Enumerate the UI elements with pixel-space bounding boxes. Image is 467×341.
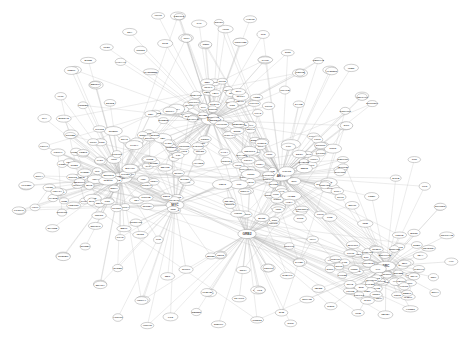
graph-node[interactable]: KYT (191, 20, 206, 27)
graph-node[interactable]: IPZTR (325, 302, 338, 309)
graph-node[interactable]: MGHU (345, 201, 359, 209)
graph-node[interactable]: TNZ (167, 206, 178, 212)
graph-node[interactable]: VLXF (55, 93, 67, 100)
graph-node[interactable]: ICMR (344, 64, 359, 71)
graph-node[interactable]: PZTH5 (392, 232, 406, 238)
graph-node[interactable]: DBNMD (191, 308, 201, 315)
graph-node[interactable]: MHPXFK (346, 241, 360, 249)
graph-node[interactable]: FAZIX (163, 140, 173, 147)
graph-node[interactable]: DRVEV (214, 19, 224, 26)
graph-node[interactable]: HUKFN (141, 322, 154, 328)
graph-node[interactable]: RYY (38, 114, 51, 122)
graph-node[interactable]: LGVGUR (215, 121, 229, 128)
graph-node[interactable]: CDDA (254, 160, 265, 168)
graph-node[interactable]: ZSA (123, 28, 137, 35)
graph-node[interactable]: ZNVSFG (88, 222, 102, 229)
graph-node[interactable]: PCL (281, 143, 296, 150)
graph-node[interactable]: MET (161, 273, 175, 280)
graph-node[interactable]: NRTY (236, 266, 250, 273)
graph-node[interactable]: BCNE (255, 214, 270, 221)
graph-node[interactable]: CUM (60, 198, 69, 204)
graph-node[interactable]: AHDY (283, 199, 295, 205)
graph-node[interactable]: YLZSZS9 (326, 67, 338, 75)
graph-node[interactable]: YTSVU1 (113, 314, 123, 322)
graph-node[interactable]: YKMIYM (201, 289, 213, 297)
graph-node[interactable]: DDN4 (292, 150, 306, 158)
graph-node[interactable]: XRUEZ (134, 46, 147, 54)
graph-node[interactable]: EGINBY (80, 243, 90, 250)
graph-node[interactable]: LEBCNK (67, 202, 81, 209)
graph-node[interactable]: ULGZ (217, 78, 227, 84)
graph-node[interactable]: CPHD (344, 250, 358, 256)
graph-node[interactable]: IZSGA (109, 185, 120, 192)
graph-node[interactable]: RIUS (285, 320, 297, 327)
graph-node[interactable]: VTIVR (152, 13, 165, 20)
graph-node[interactable]: GGB (352, 310, 365, 317)
graph-node[interactable]: HRL (137, 176, 149, 183)
graph-node[interactable]: DML5 (161, 194, 172, 200)
graph-node[interactable]: EVSM9 (113, 264, 123, 271)
graph-node[interactable]: LLGSBL (19, 182, 34, 190)
graph-node[interactable]: KGFU (262, 102, 275, 109)
graph-node[interactable]: THEPYX (413, 265, 425, 272)
graph-node[interactable]: RPMH7 (370, 246, 384, 252)
graph-node[interactable]: AFL (445, 258, 458, 265)
graph-node[interactable]: GUR8 (142, 156, 156, 162)
graph-node[interactable]: BIGAXP (122, 164, 138, 173)
graph-node[interactable]: PRS (101, 198, 115, 204)
graph-node[interactable]: YCNMS (403, 306, 419, 312)
graph-node[interactable]: PRS (226, 102, 238, 109)
graph-node[interactable]: PYIT4 (219, 149, 230, 156)
graph-node[interactable]: SVC4 (331, 188, 344, 195)
graph-node[interactable]: ZSXR8 (104, 99, 116, 106)
graph-node[interactable]: ZHKB (390, 175, 401, 181)
graph-node[interactable]: SMYMP (223, 198, 235, 204)
graph-node[interactable]: BBHL (117, 226, 131, 232)
graph-node[interactable]: SRU (269, 217, 279, 223)
graph-node[interactable]: NTL (362, 254, 371, 260)
graph-node[interactable]: KEDREK9 (295, 206, 309, 212)
graph-node[interactable]: ZTAUN8 (46, 225, 59, 232)
graph-node[interactable]: FRNR (348, 265, 359, 272)
graph-node[interactable]: BISSS (408, 229, 420, 236)
graph-node[interactable]: KFISST (111, 204, 122, 211)
graph-node[interactable]: SIKTM2 (65, 132, 76, 138)
graph-node[interactable]: NDA1 (408, 273, 419, 280)
graph-node[interactable]: MCYDA (94, 281, 107, 288)
graph-node[interactable]: REVENZ4 (422, 245, 436, 251)
graph-node[interactable]: INETKK9 (242, 146, 258, 155)
graph-node[interactable]: YXKE (218, 25, 233, 33)
graph-node[interactable]: BIHZ (85, 182, 94, 189)
graph-node[interactable]: GLR (419, 182, 430, 190)
graph-node[interactable]: MKH4 (430, 289, 441, 297)
graph-node[interactable]: LHTF4 (125, 141, 143, 150)
graph-node[interactable]: DUTS (334, 263, 343, 270)
graph-node[interactable]: IKIL (92, 168, 102, 175)
graph-node[interactable]: IIRGF7 (202, 84, 216, 91)
graph-node[interactable]: EPF6 (335, 194, 346, 200)
graph-node[interactable]: RRLS9 (92, 212, 107, 219)
graph-node[interactable]: YUHV (30, 204, 40, 211)
graph-node[interactable]: ZHB (275, 309, 288, 316)
graph-node[interactable]: YKANE2 (192, 160, 204, 167)
graph-node[interactable]: ISMCII (64, 67, 78, 75)
graph-node[interactable]: YAKAA1 (115, 58, 126, 65)
graph-node[interactable]: LTUL (264, 152, 276, 158)
graph-node[interactable]: ZULYT8 (300, 296, 314, 303)
graph-node[interactable]: EYVIB (293, 101, 304, 108)
graph-node[interactable]: ZVKHUN (334, 168, 345, 176)
graph-node[interactable]: XXKLGX (354, 292, 365, 298)
graph-node[interactable]: CUD (323, 214, 337, 222)
graph-node[interactable]: CCPSLN7 (262, 172, 274, 179)
graph-node[interactable]: NDH (428, 274, 438, 281)
graph-node[interactable]: XBVBY (378, 311, 393, 319)
graph-node[interactable]: EIMFFP (211, 321, 225, 328)
graph-node[interactable]: SCMUC (104, 127, 122, 136)
graph-node[interactable]: RPBZ (68, 161, 81, 168)
graph-node[interactable]: KYFBD (365, 281, 374, 288)
graph-node[interactable]: DAMNMM6 (143, 69, 158, 75)
graph-node[interactable]: MDYUZ (158, 164, 172, 171)
graph-node[interactable]: TIGCG8 (139, 194, 154, 201)
graph-node[interactable]: TRUCRD (178, 142, 191, 149)
graph-node[interactable]: VYD7 (95, 157, 106, 164)
